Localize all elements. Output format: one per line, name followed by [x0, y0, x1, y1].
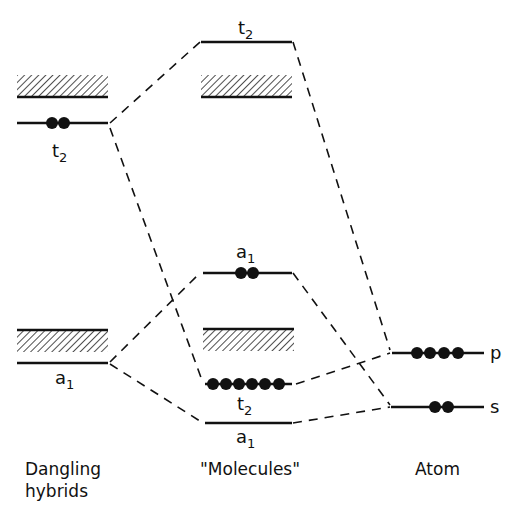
band-hatch: [17, 75, 108, 96]
band-hatch: [201, 75, 292, 96]
correlation-lines: [110, 42, 390, 423]
label-s: s: [490, 396, 499, 417]
line-dt2-molt2top: [110, 42, 200, 123]
line-da1-mola1top: [110, 273, 200, 362]
electron-dot: [442, 401, 454, 413]
label-a1-lower: a1: [236, 426, 255, 451]
label-t2-bonding: t2: [237, 393, 252, 418]
label-t2-antibonding: t2: [238, 17, 253, 42]
electron-dot: [207, 378, 219, 390]
electron-dot: [46, 117, 58, 129]
label-a1-upper: a1: [236, 241, 255, 266]
electron-dot: [233, 378, 245, 390]
band-hatch: [17, 331, 108, 352]
line-molt2bot-p: [296, 353, 390, 384]
line-mola1top-s: [293, 273, 390, 405]
caption-atom: Atom: [415, 458, 460, 480]
electron-dot: [411, 347, 423, 359]
caption-dangling-hybrids: Dangling hybrids: [25, 458, 101, 502]
electron-dot: [438, 347, 450, 359]
electron-dot: [220, 378, 232, 390]
electron-dot: [247, 267, 259, 279]
electron-dot: [273, 378, 285, 390]
label-a1: a1: [55, 367, 74, 392]
caption-line-2: hybrids: [25, 480, 101, 502]
electron-dot: [259, 378, 271, 390]
electron-dot: [429, 401, 441, 413]
label-t2: t2: [52, 140, 67, 165]
electron-dot: [235, 267, 247, 279]
electron-dot: [452, 347, 464, 359]
label-p: p: [490, 342, 501, 363]
line-molt2top-p: [293, 42, 390, 350]
caption-molecules: "Molecules": [200, 458, 300, 480]
electron-dot: [58, 117, 70, 129]
atom-column: p s: [391, 342, 501, 417]
dangling-column: t2 a1: [17, 75, 108, 392]
caption-line-1: Dangling: [25, 458, 101, 480]
electron-dot: [246, 378, 258, 390]
electron-dot: [424, 347, 436, 359]
line-dt2-molt2bot: [110, 128, 203, 383]
band-hatch: [203, 330, 294, 351]
molecules-column: t2 a1 t2 a1: [201, 17, 294, 451]
line-da1-mola1bot: [110, 364, 203, 423]
energy-level-diagram: t2 a1 t2 a1 t2 a1 p: [0, 0, 517, 524]
line-mola1bot-s: [293, 407, 390, 423]
